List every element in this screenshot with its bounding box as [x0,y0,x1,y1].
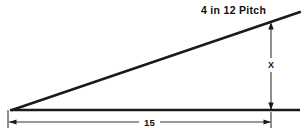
run-arrow-right-icon [264,119,272,124]
roof-pitch-diagram: 4 in 12 Pitch 15 X [0,0,305,134]
rise-dimension-label: X [268,60,274,70]
run-dimension-label: 15 [144,117,155,128]
diagram-svg: 4 in 12 Pitch 15 X [0,0,305,134]
pitch-label: 4 in 12 Pitch [201,4,266,16]
rafter-slope-line [12,12,300,110]
run-arrow-left-icon [9,119,17,124]
